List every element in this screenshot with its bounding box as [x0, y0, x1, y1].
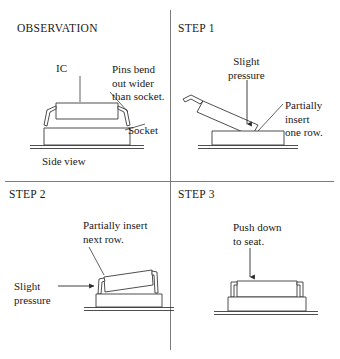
- panel-title-step2: STEP 2: [9, 188, 46, 200]
- step2-annotations: [58, 247, 104, 286]
- ic-body-observation: [56, 103, 118, 119]
- label-socket: Socket: [128, 124, 158, 138]
- diagram-artwork: [0, 0, 340, 359]
- leader-partially-insert-step1: [258, 104, 283, 131]
- label-ic: IC: [56, 62, 67, 76]
- socket-body-observation: [44, 128, 130, 145]
- leader-partially-insert-step2: [89, 247, 104, 275]
- ic-pin-left-step3: [231, 282, 237, 297]
- label-partially-insert-step2: Partially insert next row.: [83, 219, 147, 246]
- ic-pin-right-observation: [118, 106, 130, 126]
- step2-drawing: [84, 270, 174, 311]
- panel-title-observation: OBSERVATION: [17, 22, 98, 34]
- panel-title-step1: STEP 1: [178, 22, 215, 34]
- label-side-view: Side view: [42, 155, 86, 169]
- observation-drawing: [30, 103, 144, 149]
- label-partially-insert-step1: Partially insert one row.: [285, 99, 323, 140]
- figure-root: OBSERVATION STEP 1 STEP 2 STEP 3 IC Pins…: [0, 0, 340, 359]
- socket-body-step2: [96, 294, 162, 307]
- ic-body-step3: [237, 281, 297, 297]
- label-slight-pressure-step2: Slight pressure: [14, 280, 51, 307]
- label-pins-bend: Pins bend out wider than socket.: [112, 63, 165, 104]
- label-slight-pressure-step1: Slight pressure: [228, 55, 265, 82]
- ic-body-step2: [104, 270, 153, 292]
- ic-pin-left-step1: [183, 95, 203, 104]
- step1-drawing: [183, 95, 298, 149]
- panel-title-step3: STEP 3: [178, 188, 215, 200]
- socket-body-step1: [212, 131, 284, 145]
- ic-pin-left-observation: [44, 106, 56, 126]
- ic-pin-right-step3: [297, 282, 303, 297]
- step3-drawing: [214, 281, 318, 315]
- ic-pin-left-step2: [98, 278, 105, 294]
- label-push-down-step3: Push down to seat.: [233, 221, 282, 248]
- socket-body-step3: [228, 297, 306, 311]
